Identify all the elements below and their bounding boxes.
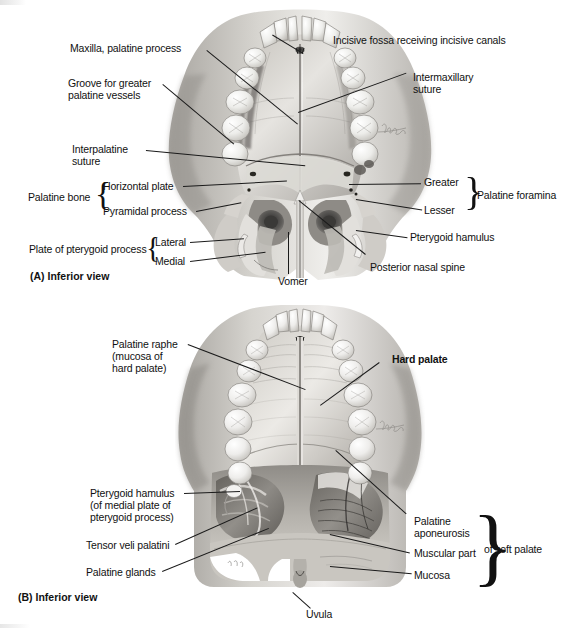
label-interpalatine-suture-line1: Interpalatine xyxy=(72,144,128,156)
leader-vomer xyxy=(288,232,289,274)
label-pterygoid-hamulus-a: Pterygoid hamulus xyxy=(410,232,494,244)
label-vomer: Vomer xyxy=(278,276,308,288)
label-pterygoid-hamulus-b-line3: pterygoid process) xyxy=(90,512,174,524)
panel-b-caption: (B) Inferior view xyxy=(18,591,97,603)
label-maxilla-palatine-process: Maxilla, palatine process xyxy=(70,43,181,55)
label-greater-palatine-foramen: Greater xyxy=(424,177,459,189)
page-edge-mark-top xyxy=(0,0,26,5)
label-pyramidal-process: Pyramidal process xyxy=(103,206,187,218)
panel-a-caption: (A) Inferior view xyxy=(30,270,109,282)
page-edge-mark-bottom xyxy=(0,624,30,628)
label-lateral-plate: Lateral xyxy=(155,237,186,249)
panel-b-illustration xyxy=(150,305,450,613)
label-groove-greater-palatine-vessels-line2: palatine vessels xyxy=(68,90,140,102)
label-lesser-palatine-foramina: Lesser xyxy=(424,205,455,217)
label-medial-plate: Medial xyxy=(155,256,185,268)
label-mucosa: Mucosa xyxy=(414,570,450,582)
label-pterygoid-hamulus-b-line1: Pterygoid hamulus xyxy=(90,488,174,500)
label-muscular-part: Muscular part xyxy=(414,548,476,560)
label-palatine-raphe-line3: hard palate) xyxy=(112,363,166,375)
label-uvula: Uvula xyxy=(306,609,332,621)
of-soft-palate-prefix: of xyxy=(484,543,495,555)
label-plate-of-pterygoid-process: Plate of pterygoid process xyxy=(29,244,147,256)
of-soft-palate-bold: soft palate xyxy=(495,543,542,555)
label-hard-palate: Hard palate xyxy=(392,354,448,366)
label-palatine-aponeurosis-line2: aponeurosis xyxy=(414,528,470,540)
label-intermaxillary-suture-line2: suture xyxy=(413,84,441,96)
label-interpalatine-suture-line2: suture xyxy=(72,156,100,168)
label-horizontal-plate: Horizontal plate xyxy=(103,181,174,193)
anatomy-figure: Maxilla, palatine process Groove for gre… xyxy=(0,0,571,628)
label-posterior-nasal-spine: Posterior nasal spine xyxy=(370,262,465,274)
label-groove-greater-palatine-vessels-line1: Groove for greater xyxy=(68,78,151,90)
label-palatine-bone: Palatine bone xyxy=(28,192,90,204)
label-incisive-fossa: Incisive fossa receiving incisive canals xyxy=(333,35,506,47)
label-palatine-aponeurosis-line1: Palatine xyxy=(414,516,451,528)
label-of-soft-palate: of soft palate xyxy=(484,544,542,556)
label-palatine-raphe-line2: (mucosa of xyxy=(112,351,162,363)
label-intermaxillary-suture-line1: Intermaxillary xyxy=(413,72,473,84)
label-palatine-foramina: Palatine foramina xyxy=(477,190,556,202)
label-pterygoid-hamulus-b-line2: (of medial plate of xyxy=(90,500,171,512)
label-palatine-raphe-line1: Palatine raphe xyxy=(112,339,178,351)
label-palatine-glands: Palatine glands xyxy=(86,567,156,579)
label-tensor-veli-palatini: Tensor veli palatini xyxy=(86,540,169,552)
